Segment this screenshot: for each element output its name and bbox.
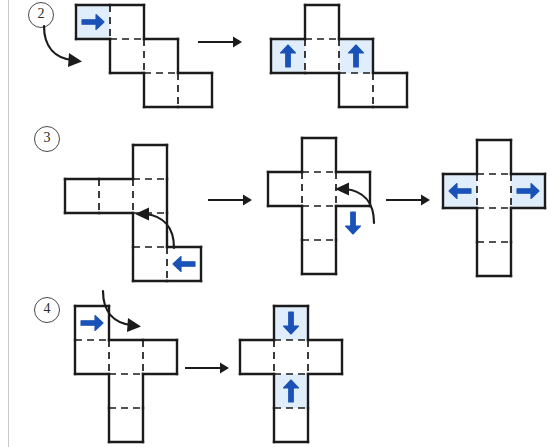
t-net-after	[268, 2, 412, 112]
rotation-hint-arrow	[42, 22, 98, 68]
fold-direction-arrows	[81, 316, 103, 331]
rotation-hint-arrow	[101, 287, 157, 333]
fold-direction-arrows	[284, 312, 299, 402]
rotation-hint-arrow	[322, 181, 378, 227]
step-number-4: 4	[34, 297, 60, 323]
transition-arrow	[208, 190, 262, 210]
fold-arrow-left	[173, 257, 195, 272]
cross-net-after	[237, 303, 347, 447]
fold-lines	[477, 174, 511, 242]
fold-arrow-right	[81, 316, 103, 331]
transition-arrow	[198, 32, 252, 52]
transition-arrow	[386, 190, 440, 210]
transition-arrow	[185, 358, 239, 378]
page-margin-rule	[8, 0, 9, 447]
diagram-canvas: 234	[0, 0, 558, 447]
fold-direction-arrows	[173, 257, 195, 272]
step-number-3: 3	[34, 126, 60, 152]
cross-net-after	[440, 137, 550, 281]
rotation-hint-arrow	[122, 206, 178, 252]
